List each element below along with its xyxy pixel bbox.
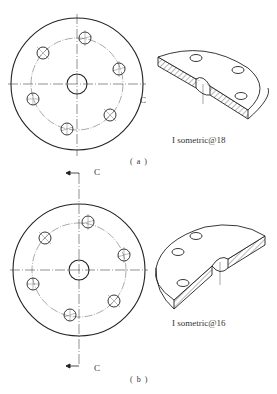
caption-a: ( a ) [130,157,148,166]
section-marker-b [68,173,79,366]
plan-view-a [8,14,146,156]
drawing-canvas [0,0,277,394]
plan-view-b [10,171,148,368]
isometric-view-a [158,51,269,119]
iso-label-a: I sometric@18 [172,135,226,145]
section-label-a: C [140,95,146,105]
iso-label-b: I sometric@16 [172,318,226,328]
isometric-view-b [155,225,265,309]
section-label-b-top: C [94,167,100,177]
caption-b: ( b ) [130,375,148,384]
section-label-b-bottom: C [94,363,100,373]
